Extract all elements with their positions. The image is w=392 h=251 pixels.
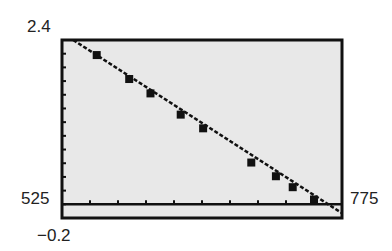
data-point xyxy=(199,124,207,132)
data-point xyxy=(272,172,280,180)
calculator-plot xyxy=(0,0,392,251)
data-point xyxy=(247,159,255,167)
data-point xyxy=(146,89,154,97)
data-point xyxy=(310,196,318,204)
data-point xyxy=(93,51,101,59)
data-point xyxy=(125,75,133,83)
data-point xyxy=(289,183,297,191)
data-point xyxy=(177,111,185,119)
